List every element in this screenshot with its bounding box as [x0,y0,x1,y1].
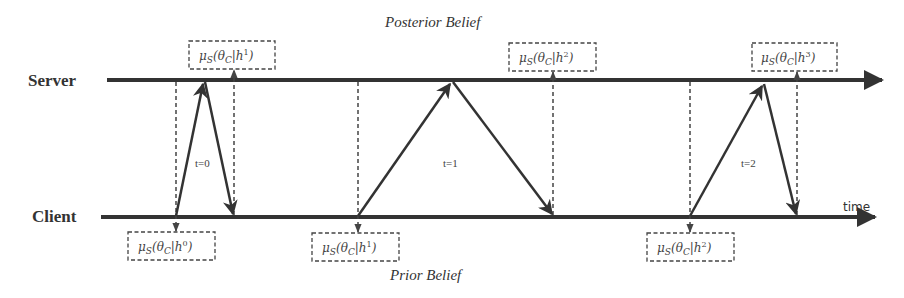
client-server-belief-diagram: Posterior Belief Prior Belief Server Cli… [0,0,904,298]
posterior-box: μS(θC|h1) [189,41,275,69]
round-label: t=0 [195,157,210,169]
posterior-box: μS(θC|h3) [752,43,837,71]
round-label: t=2 [741,157,756,169]
prior-dashed-guides [176,82,690,232]
round-1-messages [358,82,552,216]
prior-box: μS(θC|h2) [647,233,734,261]
prior-belief-caption: Prior Belief [389,267,463,283]
client-lane-label: Client [32,207,77,226]
prior-box: μS(θC|h0) [128,232,215,260]
server-lane-label: Server [28,71,77,90]
time-axis-label: time [843,200,870,214]
posterior-belief-caption: Posterior Belief [384,14,482,30]
prior-box: μS(θC|h1) [312,233,399,261]
round-0-messages [176,82,233,216]
round-label: t=1 [443,157,458,169]
round-2-messages [690,84,796,216]
posterior-dashed-guides [234,70,797,215]
posterior-box: μS(θC|h2) [509,43,596,71]
